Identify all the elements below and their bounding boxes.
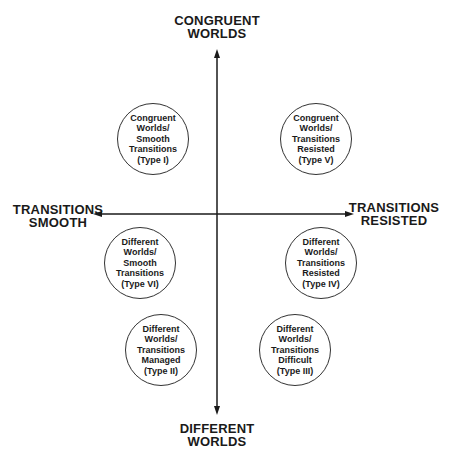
- circle-text: Transitions: [271, 345, 319, 356]
- circle-text: Managed: [141, 355, 180, 366]
- circle-text: Smooth: [136, 134, 170, 145]
- circle-text: (Type III): [277, 366, 313, 377]
- axis-label-right: TRANSITIONS RESISTED: [344, 201, 444, 227]
- circle-text: (Type II): [144, 366, 178, 377]
- circle-text: Transitions: [292, 134, 340, 145]
- circle-text: (Type VI): [121, 279, 158, 290]
- axis-label-line: SMOOTH: [8, 216, 108, 229]
- type-iv-circle: Different Worlds/ Transitions Resisted (…: [285, 227, 357, 299]
- axis-label-line: WORLDS: [162, 435, 272, 448]
- circle-text: Resisted: [297, 144, 335, 155]
- type-vi-circle: Different Worlds/ Smooth Transitions (Ty…: [104, 227, 176, 299]
- circle-text: Worlds/: [279, 334, 312, 345]
- circle-text: Different: [276, 324, 313, 335]
- circle-text: Transitions: [116, 268, 164, 279]
- circle-text: (Type V): [299, 155, 334, 166]
- circle-text: Different: [302, 237, 339, 248]
- arrow-down-icon: [214, 406, 220, 415]
- circle-text: Worlds/: [300, 123, 333, 134]
- circle-text: Smooth: [123, 258, 157, 269]
- circle-text: Worlds/: [124, 247, 157, 258]
- circle-text: Congruent: [293, 113, 339, 124]
- circle-text: Resisted: [302, 268, 340, 279]
- circle-text: Difficult: [278, 355, 312, 366]
- circle-text: Worlds/: [137, 123, 170, 134]
- axis-label-bottom: DIFFERENT WORLDS: [162, 422, 272, 448]
- type-iii-circle: Different Worlds/ Transitions Difficult …: [259, 314, 331, 386]
- arrow-up-icon: [214, 49, 220, 58]
- axis-label-left: TRANSITIONS SMOOTH: [8, 203, 108, 229]
- circle-text: Different: [121, 237, 158, 248]
- circle-text: Worlds/: [145, 334, 178, 345]
- axis-label-top: CONGRUENT WORLDS: [162, 14, 272, 40]
- type-i-circle: Congruent Worlds/ Smooth Transitions (Ty…: [117, 103, 189, 175]
- circle-text: (Type IV): [302, 279, 339, 290]
- axis-label-line: WORLDS: [162, 27, 272, 40]
- circle-text: Different: [142, 324, 179, 335]
- circle-text: Transitions: [129, 144, 177, 155]
- circle-text: Worlds/: [305, 247, 338, 258]
- axis-label-line: RESISTED: [344, 214, 444, 227]
- type-ii-circle: Different Worlds/ Transitions Managed (T…: [125, 314, 197, 386]
- type-v-circle: Congruent Worlds/ Transitions Resisted (…: [280, 103, 352, 175]
- circle-text: (Type I): [137, 155, 168, 166]
- circle-text: Transitions: [297, 258, 345, 269]
- circle-text: Transitions: [137, 345, 185, 356]
- circle-text: Congruent: [130, 113, 176, 124]
